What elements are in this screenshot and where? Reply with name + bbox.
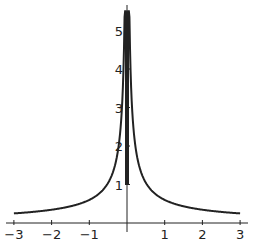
data-curve bbox=[14, 11, 240, 213]
x-tick-label: −1 bbox=[80, 227, 99, 242]
x-tick-label: 3 bbox=[236, 227, 244, 242]
y-tick-label: 1 bbox=[115, 178, 123, 193]
plot-area: −3−2−1123 12345 bbox=[0, 0, 262, 248]
y-tick-label: 5 bbox=[115, 24, 123, 39]
y-tick-label: 4 bbox=[115, 62, 123, 77]
x-tick-label: 1 bbox=[161, 227, 169, 242]
x-tick-label: 2 bbox=[198, 227, 206, 242]
x-tick-label: −2 bbox=[42, 227, 61, 242]
x-tick-label: −3 bbox=[4, 227, 23, 242]
